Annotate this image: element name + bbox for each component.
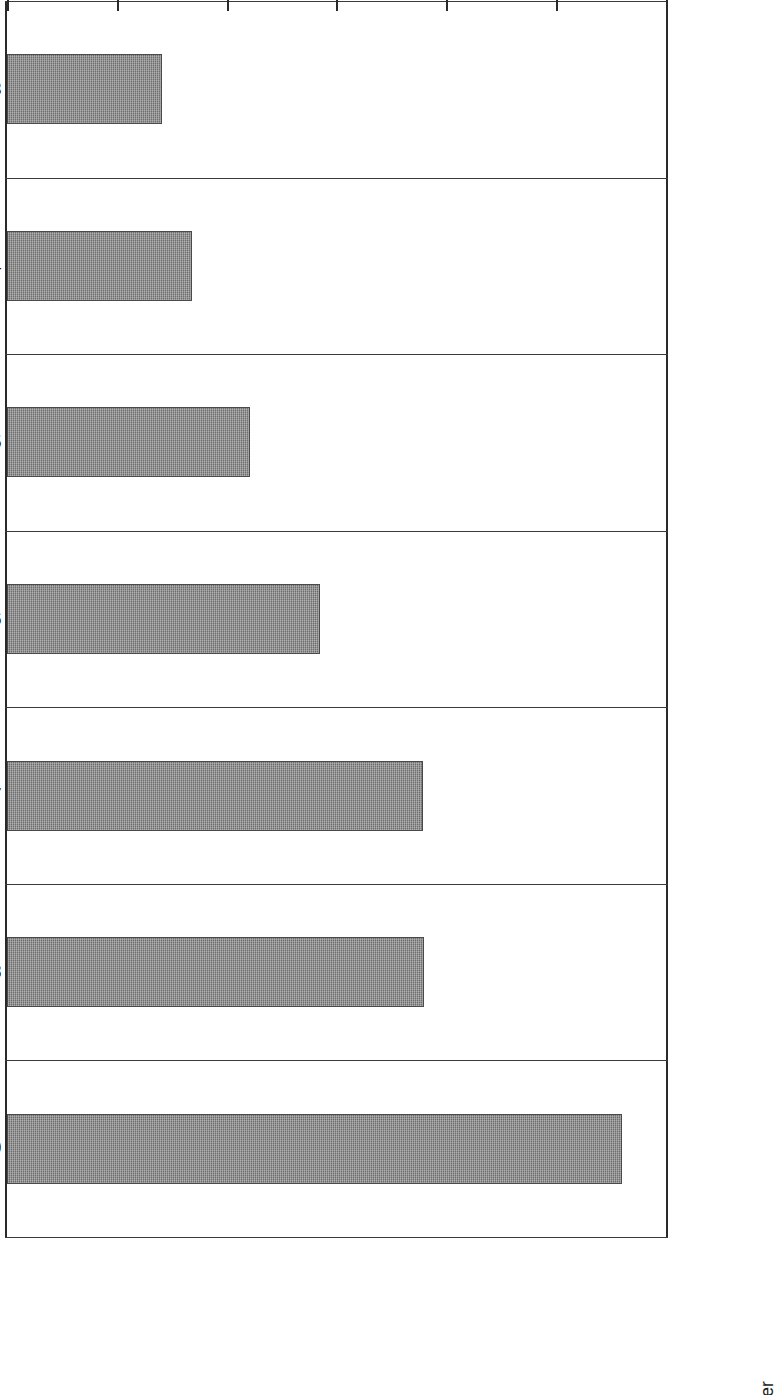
category-label-1983: 1983	[0, 78, 68, 100]
gridline	[5, 883, 668, 884]
bar-1988	[7, 937, 424, 1007]
figure-caption: Fig. 5.3.NCI appropriation requests, 198…	[757, 1381, 778, 1395]
gridline	[5, 530, 668, 531]
bar-1989	[7, 1113, 622, 1183]
gridline	[5, 1237, 668, 1238]
value-tick	[117, 0, 119, 11]
chart-plot-area	[5, 1, 668, 1237]
figure-caption-text: NCI appropriation requests, 1983–1989. O…	[757, 1381, 777, 1395]
bar-1987	[7, 760, 423, 830]
axis-top-frame-line	[666, 1, 668, 1237]
value-tick	[446, 0, 448, 11]
gridline	[5, 177, 668, 178]
value-tick	[556, 0, 558, 11]
category-label-1988: 1988	[0, 961, 68, 983]
gridline	[5, 1060, 668, 1061]
category-label-1986: 1986	[0, 607, 68, 629]
category-label-1985: 1985	[0, 431, 68, 453]
rotated-figure-stage: 1983198419851986198719881989 02,000,0004…	[0, 1, 695, 1291]
value-tick	[666, 0, 668, 11]
category-label-1987: 1987	[0, 784, 68, 806]
category-label-1984: 1984	[0, 254, 68, 276]
gridline	[5, 354, 668, 355]
category-label-1989: 1989	[0, 1137, 68, 1159]
gridline	[5, 707, 668, 708]
value-tick	[7, 0, 9, 11]
value-tick	[227, 0, 229, 11]
value-tick	[337, 0, 339, 11]
